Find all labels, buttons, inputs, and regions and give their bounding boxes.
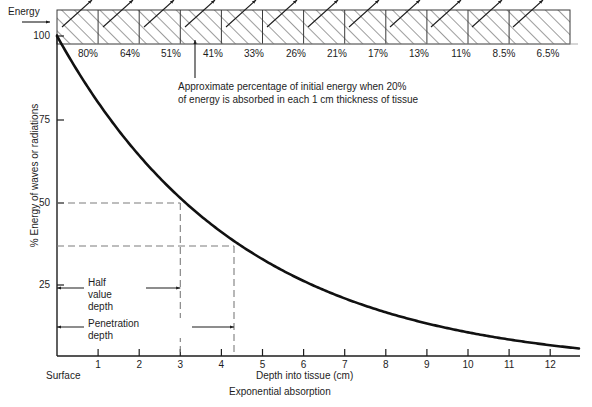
y-tick-label-75: 75 bbox=[39, 114, 50, 125]
half-value-depth-line-2: value bbox=[88, 289, 113, 301]
half-value-depth-label: Half value depth bbox=[88, 277, 113, 313]
x-tick-label-1: 1 bbox=[95, 359, 101, 370]
band-pct-label-4: 41% bbox=[203, 48, 223, 59]
x-tick-label-9: 9 bbox=[424, 359, 430, 370]
y-tick-label-25: 25 bbox=[39, 279, 50, 290]
band-pct-label-11: 8.5% bbox=[493, 48, 516, 59]
x-tick-label-4: 4 bbox=[219, 359, 225, 370]
energy-inlet-label: Energy bbox=[8, 6, 40, 17]
band-pct-label-7: 21% bbox=[327, 48, 347, 59]
half-value-depth-line-3: depth bbox=[88, 301, 113, 313]
x-tick-label-8: 8 bbox=[383, 359, 389, 370]
band-pct-label-2: 64% bbox=[120, 48, 140, 59]
y-axis-title: % Energy of waves or radiations bbox=[29, 86, 40, 266]
band-pct-label-10: 11% bbox=[451, 48, 470, 59]
annotation-line-1: Approximate percentage of initial energy… bbox=[178, 80, 418, 93]
text-layer: Energy % Energy of waves or radiations 1… bbox=[0, 0, 592, 407]
band-pct-label-9: 13% bbox=[409, 48, 429, 59]
x-tick-label-6: 6 bbox=[301, 359, 307, 370]
surface-label: Surface bbox=[46, 370, 80, 381]
figure-root: Energy % Energy of waves or radiations 1… bbox=[0, 0, 592, 407]
y-tick-label-50: 50 bbox=[39, 197, 50, 208]
x-tick-label-5: 5 bbox=[260, 359, 266, 370]
penetration-depth-label: Penetration depth bbox=[88, 318, 139, 342]
half-value-depth-line-1: Half bbox=[88, 277, 113, 289]
band-pct-label-6: 26% bbox=[286, 48, 306, 59]
penetration-depth-line-2: depth bbox=[88, 330, 139, 342]
x-tick-label-10: 10 bbox=[462, 359, 473, 370]
figure-caption: Exponential absorption bbox=[229, 386, 331, 397]
x-tick-label-7: 7 bbox=[342, 359, 348, 370]
band-pct-label-12: 6.5% bbox=[537, 48, 560, 59]
x-axis-title: Depth into tissue (cm) bbox=[256, 370, 353, 381]
x-tick-label-2: 2 bbox=[136, 359, 142, 370]
x-tick-label-11: 11 bbox=[504, 359, 514, 370]
band-pct-label-3: 51% bbox=[161, 48, 181, 59]
penetration-depth-line-1: Penetration bbox=[88, 318, 139, 330]
band-pct-label-8: 17% bbox=[368, 48, 388, 59]
band-pct-label-1: 80% bbox=[78, 48, 98, 59]
x-tick-label-12: 12 bbox=[545, 359, 556, 370]
band-pct-label-5: 33% bbox=[244, 48, 264, 59]
x-tick-label-3: 3 bbox=[178, 359, 184, 370]
annotation-line-2: of energy is absorbed in each 1 cm thick… bbox=[178, 93, 418, 106]
annotation-text: Approximate percentage of initial energy… bbox=[178, 80, 418, 106]
y-tick-label-100: 100 bbox=[33, 30, 50, 41]
